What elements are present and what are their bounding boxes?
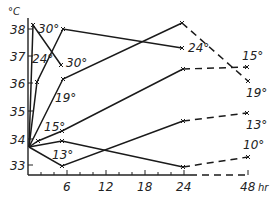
y-tick-36: 36	[10, 77, 26, 91]
x-tick-6: 6	[63, 180, 71, 194]
series-13-dashed	[183, 113, 247, 121]
y-unit-label: °C	[8, 6, 20, 17]
label-15-left: 15°	[44, 120, 65, 134]
label-13-left: 13°	[52, 148, 73, 162]
series-10-dashed	[183, 157, 248, 167]
label-24-left: 24°	[32, 52, 53, 66]
y-tick-34: 34	[10, 133, 25, 147]
y-tick-33: 33	[10, 159, 25, 173]
label-19-left: 19°	[55, 91, 76, 105]
label-24-right: 24°	[188, 41, 209, 55]
label-30-top: 30°	[38, 22, 59, 36]
x-tick-24: 24	[176, 180, 191, 194]
label-13-right: 13°	[246, 118, 267, 132]
y-tick-37: 37	[10, 50, 26, 64]
label-30-right: 30°	[66, 56, 87, 70]
y-tick-38: 38	[10, 23, 26, 37]
label-15-right: 15°	[242, 49, 263, 63]
x-unit-label: hr	[258, 182, 269, 193]
label-19-right: 19°	[246, 86, 267, 100]
label-10-right: 10°	[243, 138, 264, 152]
x-tick-18: 18	[137, 180, 153, 194]
series-15-dashed	[183, 67, 247, 69]
temperature-chart: °C 38 37 36 35 34 33 6 12 18 24 48 hr	[0, 0, 277, 200]
x-tick-48: 48	[240, 180, 256, 194]
y-tick-35: 35	[10, 105, 25, 119]
series-15-line	[29, 69, 183, 147]
x-tick-12: 12	[98, 180, 113, 194]
